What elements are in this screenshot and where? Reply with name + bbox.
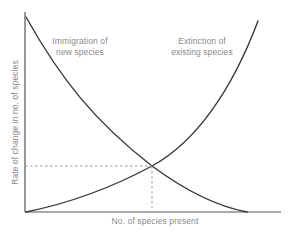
y-axis-title: Rate of change in no. of species <box>10 43 21 203</box>
x-axis-title: No. of species present <box>75 216 235 227</box>
extinction-curve-label: Extinction of existing species <box>160 36 244 58</box>
equilibrium-species-figure: Immigration of new species Extinction of… <box>0 0 290 236</box>
immigration-curve-label: Immigration of new species <box>38 36 122 58</box>
